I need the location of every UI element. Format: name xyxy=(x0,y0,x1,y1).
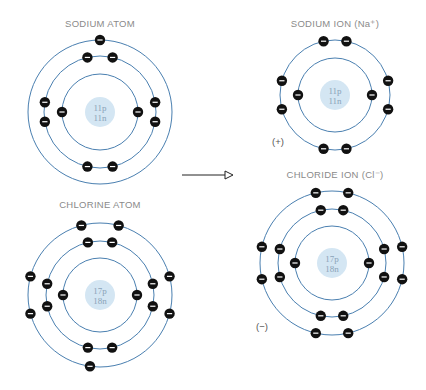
electron xyxy=(257,274,267,284)
electron xyxy=(275,272,285,282)
proton-count: 17p xyxy=(93,286,107,296)
electron xyxy=(277,104,287,114)
electron xyxy=(40,97,50,107)
electron xyxy=(113,220,123,230)
electron xyxy=(107,237,117,247)
electron xyxy=(107,52,117,62)
electron xyxy=(383,104,393,114)
electron xyxy=(132,290,142,300)
electron xyxy=(164,271,174,281)
electron xyxy=(83,342,93,352)
electron xyxy=(293,90,303,100)
sodium-atom-title: SODIUM ATOM xyxy=(65,18,135,29)
chlorine-atom: 17p18n xyxy=(25,220,174,371)
electron xyxy=(133,107,143,117)
electron xyxy=(316,205,326,215)
sodium-atom: 11p11n xyxy=(28,35,172,184)
proton-count: 17p xyxy=(325,254,339,264)
electron xyxy=(338,311,348,321)
electron xyxy=(379,272,389,282)
electron xyxy=(25,271,35,281)
electron xyxy=(42,279,52,289)
electron xyxy=(107,342,117,352)
electron xyxy=(383,76,393,86)
electron xyxy=(318,144,328,154)
electron xyxy=(57,107,67,117)
electron xyxy=(150,117,160,127)
proton-count: 11p xyxy=(93,103,107,113)
electron xyxy=(164,308,174,318)
electron xyxy=(397,274,407,284)
chloride-ion: 17p18n xyxy=(257,188,408,339)
electron xyxy=(107,161,117,171)
chlorine-atom-title: CHLORINE ATOM xyxy=(59,199,141,210)
neutron-count: 18n xyxy=(93,296,107,306)
electron xyxy=(76,220,86,230)
chloride-ion-charge: (−) xyxy=(256,321,268,332)
electron xyxy=(341,36,351,46)
electron xyxy=(82,52,92,62)
electron xyxy=(42,301,52,311)
sodium-ion-charge: (+) xyxy=(272,136,284,147)
neutron-count: 18n xyxy=(325,264,339,274)
electron xyxy=(290,258,300,268)
electron xyxy=(85,361,95,371)
reaction-arrow-icon xyxy=(182,171,233,179)
electron xyxy=(311,188,321,198)
electron xyxy=(40,117,50,127)
proton-count: 11p xyxy=(328,86,342,96)
electron xyxy=(316,311,326,321)
sodium-ion-title: SODIUM ION (Na⁺) xyxy=(291,18,379,29)
electron xyxy=(379,244,389,254)
electron xyxy=(148,301,158,311)
electron xyxy=(343,328,353,338)
electron xyxy=(338,205,348,215)
neutron-count: 11n xyxy=(93,113,107,123)
electron xyxy=(367,90,377,100)
electron xyxy=(311,328,321,338)
electron xyxy=(83,237,93,247)
atom-ion-diagram: 11p11n17p18n11p11n17p18n xyxy=(0,0,426,390)
electron xyxy=(275,244,285,254)
electron xyxy=(58,290,68,300)
electron xyxy=(95,35,105,45)
electron xyxy=(397,242,407,252)
electron xyxy=(343,188,353,198)
electron xyxy=(364,258,374,268)
electron xyxy=(257,242,267,252)
chloride-ion-title: CHLORIDE ION (Cl⁻) xyxy=(287,169,384,180)
electron xyxy=(148,279,158,289)
electron xyxy=(277,76,287,86)
neutron-count: 11n xyxy=(328,96,342,106)
electron xyxy=(82,161,92,171)
electron xyxy=(341,144,351,154)
sodium-ion: 11p11n xyxy=(277,36,394,154)
electron xyxy=(25,308,35,318)
electron xyxy=(318,36,328,46)
electron xyxy=(150,97,160,107)
